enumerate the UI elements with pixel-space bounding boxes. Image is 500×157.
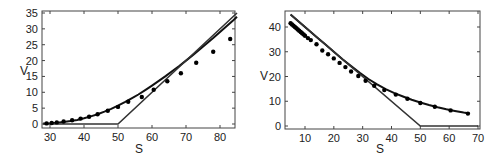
right-series — [288, 15, 478, 126]
y-tick-label: 10 — [269, 95, 281, 107]
left-series — [43, 13, 237, 126]
data-point — [337, 61, 341, 65]
x-tick-label: 50 — [414, 132, 426, 144]
data-point — [394, 92, 398, 96]
data-point — [343, 65, 347, 69]
x-tick-label: 70 — [472, 132, 484, 144]
x-tick-label: 30 — [44, 131, 56, 143]
data-point — [116, 105, 120, 109]
left-y-axis-label: V — [20, 64, 28, 78]
y-tick-label: 30 — [26, 23, 38, 35]
data-point — [95, 112, 99, 116]
model-curve — [291, 15, 470, 114]
data-point — [140, 95, 144, 99]
data-point — [165, 79, 169, 83]
data-point — [326, 52, 330, 56]
data-point — [382, 88, 386, 92]
data-point — [466, 111, 470, 115]
x-tick-label: 10 — [299, 132, 311, 144]
y-tick-label: 0 — [275, 120, 281, 132]
data-point — [356, 74, 360, 78]
model-curve — [43, 17, 237, 124]
right-chart-put: 010203040 10203040506070 V S — [260, 11, 484, 156]
data-point — [314, 42, 318, 46]
data-point — [363, 79, 367, 83]
left-chart-call: 05101520253035 304050607080 V S — [20, 7, 237, 156]
right-y-axis-label: V — [260, 69, 268, 83]
data-point — [448, 108, 452, 112]
x-tick-label: 40 — [78, 131, 90, 143]
y-tick-label: 10 — [26, 86, 38, 98]
data-point — [55, 120, 59, 124]
y-tick-label: 0 — [32, 118, 38, 130]
data-point — [179, 71, 183, 75]
data-point — [87, 115, 91, 119]
y-tick-label: 35 — [26, 7, 38, 19]
data-point — [78, 116, 82, 120]
left-plot-frame — [42, 11, 235, 128]
y-tick-label: 5 — [32, 102, 38, 114]
y-tick-label: 20 — [269, 71, 281, 83]
data-point — [70, 118, 74, 122]
data-point — [349, 69, 353, 73]
data-point — [228, 37, 232, 41]
x-tick-label: 70 — [180, 131, 192, 143]
data-point — [405, 97, 409, 101]
data-point — [50, 121, 54, 125]
data-point — [211, 50, 215, 54]
data-point — [44, 121, 48, 125]
data-point — [320, 48, 324, 52]
x-tick-label: 40 — [385, 132, 397, 144]
right-y-ticks: 010203040 — [269, 21, 480, 132]
x-tick-label: 60 — [443, 132, 455, 144]
right-x-ticks: 10203040506070 — [299, 11, 484, 144]
data-point — [433, 105, 437, 109]
data-point — [106, 109, 110, 113]
data-point — [372, 84, 376, 88]
left-x-axis-label: S — [135, 142, 143, 156]
figure: 05101520253035 304050607080 V S 01020304… — [0, 0, 500, 157]
x-tick-label: 60 — [146, 131, 158, 143]
data-point — [332, 56, 336, 60]
data-point — [309, 38, 313, 42]
data-point — [61, 119, 65, 123]
data-point — [418, 101, 422, 105]
x-tick-label: 20 — [328, 132, 340, 144]
y-tick-label: 25 — [26, 39, 38, 51]
y-tick-label: 30 — [269, 46, 281, 58]
y-tick-label: 40 — [269, 21, 281, 33]
data-point — [152, 88, 156, 92]
x-tick-label: 80 — [214, 131, 226, 143]
x-tick-label: 30 — [357, 132, 369, 144]
data-point — [194, 61, 198, 65]
data-point — [126, 100, 130, 104]
right-x-axis-label: S — [376, 142, 384, 156]
x-tick-label: 50 — [112, 131, 124, 143]
payoff-line — [43, 13, 237, 124]
